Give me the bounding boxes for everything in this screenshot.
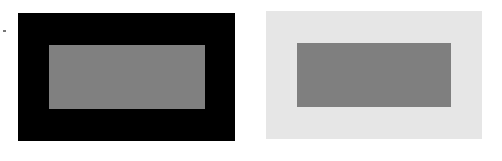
gray-center-rectangle-on-light <box>297 43 451 107</box>
tick-mark <box>3 30 6 32</box>
dark-surround-panel <box>18 13 235 141</box>
gray-center-rectangle-on-dark <box>49 45 205 109</box>
light-surround-panel <box>266 11 482 139</box>
